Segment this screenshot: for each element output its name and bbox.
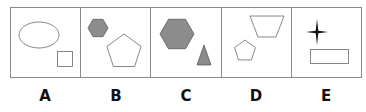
option-label-c[interactable]: C [171,86,201,106]
option-label-a[interactable]: A [30,86,60,106]
option-label-e[interactable]: E [311,86,341,106]
option-label-d[interactable]: D [241,86,271,106]
option-label-b[interactable]: B [101,86,131,106]
